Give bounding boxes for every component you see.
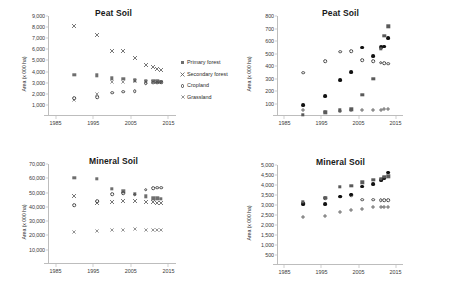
- data-point: [372, 178, 375, 181]
- y-axis-tick-label: 6,000: [32, 46, 45, 52]
- x-axis-tick-mark: [358, 116, 359, 119]
- data-point: [338, 185, 341, 188]
- y-axis-tick-label: 300: [265, 76, 274, 82]
- y-axis-tick-mark: [46, 192, 49, 193]
- data-point: [371, 205, 376, 210]
- y-axis-tick-mark: [275, 53, 278, 54]
- legend-item[interactable]: Primary forest: [178, 57, 228, 69]
- x-axis-tick-label: 2015: [162, 120, 174, 126]
- data-point: [95, 73, 98, 76]
- data-point: [73, 176, 76, 179]
- data-point: [349, 193, 353, 197]
- legend-item[interactable]: Secondary forest: [178, 69, 228, 81]
- chart-panel-peat-soil-forest: Peat Soil Area (x 000 ha) 1,0002,0003,00…: [0, 0, 227, 148]
- y-axis-tick-mark: [275, 225, 278, 226]
- data-point: [386, 62, 390, 66]
- data-point: [133, 193, 137, 197]
- data-point: [301, 71, 305, 75]
- x-axis-tick-mark: [321, 265, 322, 268]
- data-point: [144, 80, 148, 84]
- x-axis-tick-label: 1985: [278, 120, 290, 126]
- data-point: [121, 191, 125, 195]
- legend-marker-icon: [178, 72, 187, 77]
- data-point: [371, 182, 375, 186]
- y-axis-tick-label: 500: [265, 51, 274, 57]
- x-axis-tick-mark: [358, 265, 359, 268]
- figure-grid: Peat Soil Area (x 000 ha) 1,0002,0003,00…: [0, 0, 454, 297]
- data-point: [323, 214, 328, 219]
- x-axis-tick-label: 2015: [390, 120, 402, 126]
- y-axis-tick-mark: [275, 41, 278, 42]
- chart-panel-mineral-soil-other: Mineral Soil Area (x 000 ha) 5001,0001,5…: [227, 149, 454, 297]
- legend-item[interactable]: Cropland: [178, 80, 228, 92]
- data-point: [300, 215, 305, 220]
- x-axis-tick-label: 2005: [125, 268, 137, 274]
- data-point: [121, 198, 126, 203]
- y-axis-tick-label: 70,000: [29, 161, 45, 167]
- x-axis-line: [44, 115, 176, 116]
- y-axis-tick-label: 700: [265, 26, 274, 32]
- y-axis-tick-mark: [275, 195, 278, 196]
- y-axis-tick-label: 5,000: [32, 57, 45, 63]
- y-axis-tick-label: 2,500: [261, 212, 274, 218]
- legend-marker-icon: [178, 84, 187, 88]
- y-axis-tick-label: 1,000: [32, 102, 45, 108]
- data-point: [361, 93, 364, 96]
- legend-item-label: Grassland: [187, 95, 212, 100]
- data-point: [94, 33, 99, 38]
- data-point: [386, 204, 391, 209]
- data-point: [110, 80, 114, 84]
- x-axis-line: [273, 264, 403, 265]
- plot-area: 1,0002,0003,0004,0005,0006,0007,0008,000…: [48, 16, 176, 116]
- y-axis-tick-mark: [275, 175, 278, 176]
- y-axis-tick-mark: [46, 38, 49, 39]
- data-point: [121, 49, 126, 54]
- y-axis-tick-label: 60,000: [29, 175, 45, 181]
- data-point: [110, 48, 115, 53]
- x-axis-line: [44, 263, 176, 264]
- data-point: [349, 207, 354, 212]
- data-point: [144, 228, 148, 232]
- data-point: [159, 186, 163, 190]
- data-point: [301, 103, 305, 107]
- data-point: [323, 111, 326, 114]
- y-axis-tick-label: 800: [265, 13, 274, 19]
- y-axis-tick-mark: [275, 91, 278, 92]
- data-point: [158, 67, 163, 72]
- y-axis-tick-mark: [275, 165, 278, 166]
- data-point: [338, 209, 343, 214]
- data-point: [95, 229, 99, 233]
- data-point: [144, 188, 148, 192]
- x-axis-tick-label: 1995: [315, 269, 327, 275]
- data-point: [349, 184, 352, 187]
- y-axis-tick-mark: [46, 104, 49, 105]
- data-point: [360, 108, 365, 113]
- y-axis-tick-mark: [275, 245, 278, 246]
- x-axis-tick-label: 1995: [315, 120, 327, 126]
- y-axis-tick-label: 100: [265, 101, 274, 107]
- data-point: [372, 198, 376, 202]
- data-point: [301, 200, 304, 203]
- data-point: [121, 90, 125, 94]
- y-axis-tick-mark: [275, 185, 278, 186]
- y-axis-tick-label: 40,000: [29, 204, 45, 210]
- data-point: [159, 228, 163, 232]
- y-axis-line: [48, 164, 49, 264]
- data-point: [323, 59, 327, 63]
- y-axis-tick-mark: [46, 206, 49, 207]
- x-axis-tick-label: 2005: [125, 120, 137, 126]
- y-axis-tick-mark: [275, 215, 278, 216]
- data-point: [110, 228, 114, 232]
- data-point: [143, 62, 148, 67]
- data-point: [110, 192, 114, 196]
- y-axis-tick-mark: [46, 49, 49, 50]
- y-axis-tick-label: 2,000: [32, 91, 45, 97]
- y-axis-tick-mark: [46, 82, 49, 83]
- legend-item[interactable]: Grassland: [178, 92, 228, 104]
- data-point: [349, 49, 353, 53]
- y-axis-tick-mark: [275, 255, 278, 256]
- x-axis-tick-mark: [130, 116, 131, 119]
- y-axis-line: [48, 16, 49, 116]
- y-axis-tick-label: 10,000: [29, 247, 45, 253]
- y-axis-label: Area (x 000 ha): [21, 56, 27, 91]
